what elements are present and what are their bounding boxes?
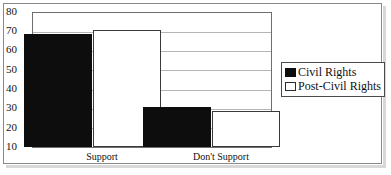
bar-support-civil-rights xyxy=(24,34,92,147)
bar-dont-support-civil-rights xyxy=(143,107,211,147)
x-tick-label-support: Support xyxy=(33,151,171,163)
legend-label: Civil Rights xyxy=(298,66,356,79)
legend-swatch-black-icon xyxy=(285,68,296,77)
bar-dont-support-post-civil-rights xyxy=(212,111,280,147)
plot-area xyxy=(32,12,272,148)
legend-item-post-civil-rights: Post-Civil Rights xyxy=(285,79,381,93)
legend-item-civil-rights: Civil Rights xyxy=(285,65,381,79)
legend-label: Post-Civil Rights xyxy=(298,80,381,93)
frame-shadow-bottom xyxy=(6,165,386,168)
chart-legend: Civil Rights Post-Civil Rights xyxy=(281,62,385,97)
legend-swatch-white-icon xyxy=(285,82,296,91)
y-tick-label: 80 xyxy=(6,6,32,17)
bar-chart-figure: 80 70 60 50 40 30 20 10 Support Don't Su… xyxy=(0,0,391,175)
x-tick-label-dont-support: Don't Support xyxy=(152,151,290,163)
